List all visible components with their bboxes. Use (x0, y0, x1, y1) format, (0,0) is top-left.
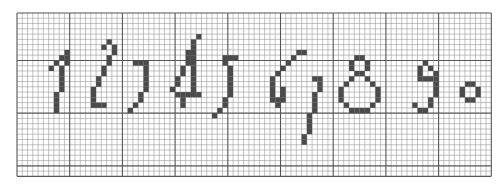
paper-background (0, 0, 503, 190)
grid-paper (0, 0, 503, 190)
